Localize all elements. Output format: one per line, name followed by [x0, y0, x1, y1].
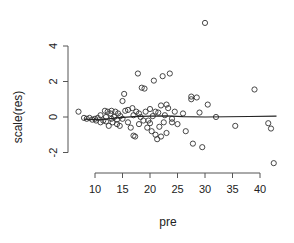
- data-points: [76, 20, 276, 165]
- data-point: [190, 141, 195, 146]
- data-point: [135, 71, 140, 76]
- data-point: [120, 98, 125, 103]
- data-point: [180, 111, 185, 116]
- data-point: [136, 122, 141, 127]
- data-point: [233, 123, 238, 128]
- data-point: [122, 91, 127, 96]
- x-tick-label: 20: [144, 183, 156, 195]
- data-point: [76, 109, 81, 114]
- data-point: [271, 161, 276, 166]
- data-point: [164, 130, 169, 135]
- y-tick-label: 4: [47, 43, 59, 49]
- y-axis-title: scale(res): [11, 91, 25, 144]
- data-point: [183, 129, 188, 134]
- scatter-plot: -202410152025303540 pre scale(res): [0, 0, 294, 243]
- data-point: [162, 113, 167, 118]
- x-tick-label: 10: [89, 183, 101, 195]
- data-point: [205, 102, 210, 107]
- x-tick-label: 40: [254, 183, 266, 195]
- y-tick-label: 0: [47, 114, 59, 120]
- data-point: [169, 120, 174, 125]
- axes: -202410152025303540: [47, 43, 266, 195]
- x-tick-label: 30: [199, 183, 211, 195]
- data-point: [157, 124, 162, 129]
- data-point: [161, 120, 166, 125]
- y-tick-label: 2: [47, 78, 59, 84]
- data-point: [194, 95, 199, 100]
- data-point: [252, 87, 257, 92]
- data-point: [266, 121, 271, 126]
- data-point: [200, 145, 205, 150]
- data-point: [160, 74, 165, 79]
- data-point: [158, 103, 163, 108]
- data-point: [167, 71, 172, 76]
- data-point: [158, 134, 163, 139]
- x-tick-label: 25: [171, 183, 183, 195]
- data-point: [133, 134, 138, 139]
- y-tick-label: -2: [47, 148, 59, 158]
- data-point: [125, 120, 130, 125]
- data-point: [202, 20, 207, 25]
- data-point: [147, 106, 152, 111]
- data-point: [175, 122, 180, 127]
- data-point: [141, 118, 146, 123]
- data-point: [172, 109, 177, 114]
- data-point: [128, 125, 133, 130]
- data-point: [197, 110, 202, 115]
- x-tick-label: 35: [226, 183, 238, 195]
- data-point: [268, 126, 273, 131]
- x-tick-label: 15: [116, 183, 128, 195]
- x-axis-title: pre: [159, 215, 177, 229]
- data-point: [151, 78, 156, 83]
